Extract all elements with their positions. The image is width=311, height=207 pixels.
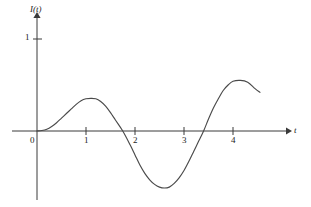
origin-label: 0: [30, 136, 35, 145]
chart-figure: I(t) t 1 0 1 2 3 4: [0, 0, 311, 207]
data-curve-I-of-t: [37, 80, 260, 188]
y-tick-label-1: 1: [25, 33, 30, 42]
x-tick-label-4: 4: [231, 136, 236, 145]
x-axis-title: t: [294, 126, 297, 135]
plot-canvas: [0, 0, 311, 207]
y-axis-title: I(t): [30, 5, 42, 14]
x-tick-label-3: 3: [182, 136, 187, 145]
x-axis-arrowhead: [286, 127, 292, 134]
x-tick-label-2: 2: [133, 136, 138, 145]
x-tick-label-1: 1: [84, 136, 89, 145]
